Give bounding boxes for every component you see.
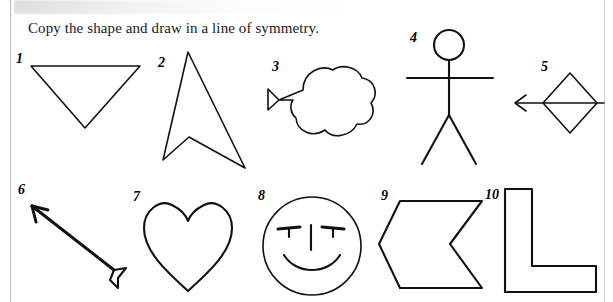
shape-cloud-with-funnel bbox=[265, 62, 380, 147]
smile-line bbox=[284, 255, 340, 270]
shape-smiley-face bbox=[258, 193, 366, 297]
shape-number-6: 6 bbox=[18, 183, 25, 197]
scan-smudge bbox=[14, 0, 344, 14]
shape-stick-figure bbox=[400, 28, 500, 168]
worksheet-page: Copy the shape and draw in a line of sym… bbox=[0, 0, 613, 302]
shape-number-10: 10 bbox=[485, 188, 499, 202]
page-rule-right bbox=[604, 0, 605, 302]
shape-number-1: 1 bbox=[16, 52, 23, 66]
shape-left-chevron-block bbox=[376, 198, 492, 292]
shape-diagonal-arrow bbox=[22, 198, 132, 290]
page-rule-left bbox=[10, 0, 11, 302]
shape-heart bbox=[138, 195, 238, 295]
shape-diamond-with-arrow bbox=[508, 70, 606, 136]
eye-left bbox=[278, 227, 300, 237]
shape-l-shape bbox=[502, 186, 602, 296]
shape-upward-arrowhead bbox=[160, 48, 252, 170]
page-title: Copy the shape and draw in a line of sym… bbox=[28, 19, 319, 37]
shape-inverted-triangle bbox=[28, 62, 148, 132]
eye-right bbox=[322, 227, 344, 237]
